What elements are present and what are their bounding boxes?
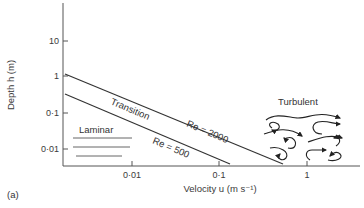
panel-label: (a) xyxy=(7,189,19,200)
x-tick-label: 1 xyxy=(304,170,309,180)
y-tick-label: 0·1 xyxy=(46,108,59,118)
y-tick-label: 0·01 xyxy=(41,144,59,154)
turbulent-label: Turbulent xyxy=(278,96,318,107)
y-tick-label: 10 xyxy=(49,36,59,46)
transition-label: Transition xyxy=(109,96,151,122)
x-tick-label: 0·01 xyxy=(123,170,141,180)
y-tick-label: 1 xyxy=(54,71,59,81)
y-ticks: 10 1 0·1 0·01 xyxy=(41,36,68,154)
turbulent-eddies-icon xyxy=(264,114,342,160)
x-tick-label: 0·1 xyxy=(212,170,225,180)
laminar-flow-lines xyxy=(73,138,132,156)
laminar-label: Laminar xyxy=(79,124,113,135)
x-axis-title: Velocity u (m s⁻¹) xyxy=(183,183,256,194)
re-2000-label: Re = 2000 xyxy=(185,118,230,145)
flow-regime-diagram: 10 1 0·1 0·01 0·01 0·1 1 Depth h (m) Vel… xyxy=(0,0,364,208)
y-axis-title: Depth h (m) xyxy=(5,60,16,110)
